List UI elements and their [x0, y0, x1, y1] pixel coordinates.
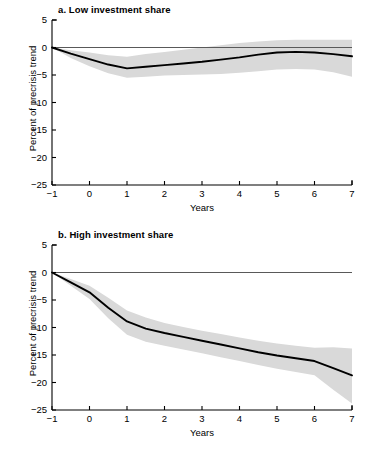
y-tick-label: −5 [36, 294, 47, 305]
panel-a-plot: 50−5−10−15−20−25−101234567 [0, 0, 365, 225]
panel-a-x-axis-label: Years [52, 202, 352, 213]
x-tick-label: 1 [124, 413, 129, 424]
x-tick-label: −1 [47, 188, 58, 199]
x-tick-label: 3 [199, 188, 204, 199]
x-tick-label: 3 [199, 413, 204, 424]
chart-panel-a: a. Low investment share 50−5−10−15−20−25… [0, 0, 365, 225]
x-tick-label: 2 [162, 188, 167, 199]
x-tick-label: 4 [237, 413, 242, 424]
x-tick-label: 7 [349, 188, 354, 199]
y-tick-label: −25 [31, 404, 47, 415]
figure-container: a. Low investment share 50−5−10−15−20−25… [0, 0, 365, 451]
y-tick-label: 0 [42, 42, 47, 53]
y-tick-label: 5 [42, 239, 47, 250]
x-tick-label: 2 [162, 413, 167, 424]
y-tick-label: −25 [31, 179, 47, 190]
x-tick-label: 4 [237, 188, 242, 199]
y-tick-label: 0 [42, 267, 47, 278]
confidence-band [52, 40, 352, 78]
x-tick-label: −1 [47, 413, 58, 424]
x-tick-label: 0 [87, 413, 92, 424]
confidence-band [52, 273, 352, 404]
chart-panel-b: b. High investment share 50−5−10−15−20−2… [0, 225, 365, 450]
x-tick-label: 0 [87, 188, 92, 199]
x-tick-label: 5 [274, 413, 279, 424]
x-tick-label: 6 [312, 413, 317, 424]
panel-b-plot: 50−5−10−15−20−25−101234567 [0, 225, 365, 450]
x-tick-label: 1 [124, 188, 129, 199]
y-tick-label: −5 [36, 69, 47, 80]
x-tick-label: 7 [349, 413, 354, 424]
panel-a-y-axis-label: Percent of precrisis trend [27, 19, 38, 179]
panel-b-y-axis-label: Percent of precrisis trend [27, 244, 38, 404]
x-tick-label: 5 [274, 188, 279, 199]
x-tick-label: 6 [312, 188, 317, 199]
y-tick-label: 5 [42, 14, 47, 25]
panel-b-x-axis-label: Years [52, 427, 352, 438]
point-estimate-line [52, 273, 352, 376]
